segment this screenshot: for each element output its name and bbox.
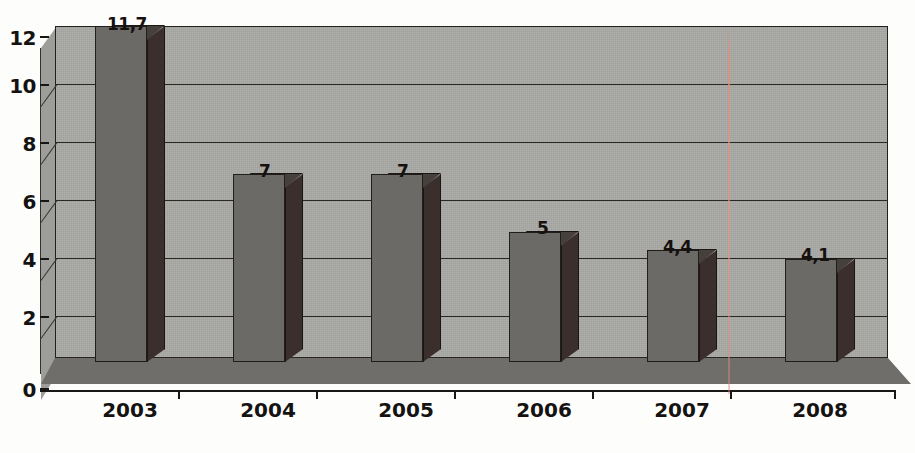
xtick-6	[894, 390, 896, 399]
bar-2003-front	[95, 26, 147, 362]
ytick-label-12: 12	[0, 26, 36, 50]
bar-2005-value-label: 7	[397, 161, 408, 181]
bar-chart-figure: 11,7 7 7 5 4,4	[0, 0, 915, 453]
bar-2008: 4,1	[785, 259, 837, 362]
ytick-label-2: 2	[0, 306, 36, 330]
chart-3d-scene: 11,7 7 7 5 4,4	[0, 0, 915, 453]
ytick-label-0: 0	[0, 378, 36, 402]
bar-2008-side	[837, 259, 855, 362]
gridline-4	[55, 258, 888, 259]
cutoff-caption	[0, 440, 915, 450]
bar-2008-front	[785, 259, 837, 362]
bar-2006-front	[509, 232, 561, 362]
ytick-label-10: 10	[0, 74, 36, 98]
bar-2007: 4,4	[647, 250, 699, 362]
bar-2003-value-label: 11,7	[107, 14, 147, 34]
xtick-label-2004: 2004	[213, 398, 323, 422]
bar-2007-value-label: 4,4	[663, 237, 692, 257]
bar-2005-front	[371, 174, 423, 362]
bar-2006-side	[561, 232, 579, 362]
bar-2004-front	[233, 174, 285, 362]
xtick-label-2003: 2003	[75, 398, 185, 422]
ytick-4	[40, 258, 49, 260]
ytick-label-4: 4	[0, 248, 36, 272]
plot-floor	[41, 358, 911, 394]
ytick-12	[40, 36, 49, 38]
ytick-10	[40, 84, 49, 86]
bar-2004-value-label: 7	[259, 161, 270, 181]
bar-2008-value-label: 4,1	[801, 245, 830, 265]
x-axis-line	[40, 390, 896, 392]
ytick-2	[40, 316, 49, 318]
bar-2005: 7	[371, 174, 423, 362]
ytick-label-6: 6	[0, 190, 36, 214]
bar-2006-value-label: 5	[537, 218, 548, 238]
xtick-label-2006: 2006	[489, 398, 599, 422]
bar-2004: 7	[233, 174, 285, 362]
bar-2003-side	[147, 26, 165, 362]
xtick-label-2008: 2008	[765, 398, 875, 422]
bar-2003: 11,7	[95, 26, 147, 362]
bar-2005-side	[423, 174, 441, 362]
ytick-8	[40, 142, 49, 144]
bar-2006: 5	[509, 232, 561, 362]
gridline-10	[55, 84, 888, 85]
ytick-label-8: 8	[0, 132, 36, 156]
gridline-2	[55, 316, 888, 317]
plot-left-wall-edge	[40, 48, 41, 374]
gridline-6	[55, 200, 888, 201]
xtick-label-2005: 2005	[351, 398, 461, 422]
xtick-label-2007: 2007	[627, 398, 737, 422]
gridline-8	[55, 142, 888, 143]
bar-2007-side	[699, 250, 717, 362]
bar-2004-side	[285, 174, 303, 362]
bar-2007-front	[647, 250, 699, 362]
ytick-6	[40, 200, 49, 202]
scan-fold-line-artifact	[728, 26, 730, 394]
plot-floor-back-edge	[55, 357, 888, 358]
